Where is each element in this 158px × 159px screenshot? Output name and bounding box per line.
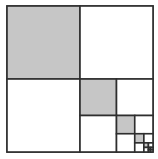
white-square-top-right-level-3 [135, 116, 153, 134]
diagram-canvas [0, 0, 158, 159]
white-square-top-right-level-4 [144, 134, 153, 143]
white-square-bottom-left-level-4 [135, 143, 144, 152]
white-square-top-right-level-2 [117, 79, 154, 116]
final-square [151, 150, 153, 152]
shaded-square-level-3 [117, 116, 135, 134]
shaded-square-level-2 [80, 79, 117, 116]
white-square-bottom-left-level-3 [117, 134, 135, 152]
shaded-square-level-1 [7, 6, 80, 79]
shaded-square-level-4 [135, 134, 144, 143]
white-square-top-right-level-1 [80, 6, 153, 79]
white-square-bottom-left-level-1 [7, 79, 80, 152]
recursive-square-diagram [0, 0, 158, 159]
white-square-bottom-left-level-2 [80, 116, 117, 153]
